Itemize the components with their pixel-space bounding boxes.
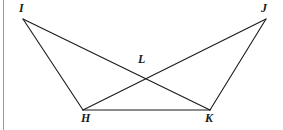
vertex-label-l: L	[138, 53, 145, 65]
vertex-label-h: H	[81, 112, 90, 124]
vertex-label-i: I	[19, 2, 24, 14]
segment-IH	[23, 19, 83, 110]
segment-IK	[23, 19, 210, 110]
vertex-label-k: K	[205, 112, 213, 124]
geometry-figure: I J L H K	[0, 0, 283, 130]
vertex-label-j: J	[261, 2, 267, 14]
